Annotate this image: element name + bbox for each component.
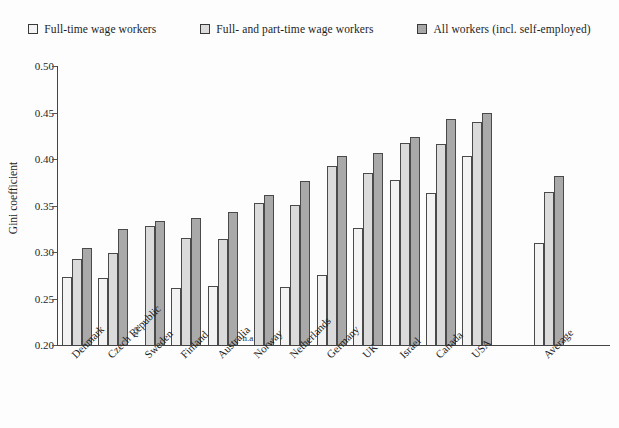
y-axis-tick-label: 0.35 (16, 200, 54, 212)
bar (534, 243, 544, 345)
bar-group (96, 66, 130, 345)
bar (400, 143, 410, 345)
bar-group (424, 66, 458, 345)
bar (300, 181, 310, 345)
bar-group (278, 66, 312, 345)
bar (363, 173, 373, 345)
plot-area: n.a.n.a. (58, 66, 610, 345)
bar-group (315, 66, 349, 345)
plot-wrapper: Gini coefficient 0.500.450.400.350.300.2… (0, 0, 619, 428)
bar (290, 205, 300, 345)
bar-group: n.a. (133, 66, 167, 345)
bar (554, 176, 564, 345)
bar (426, 193, 436, 345)
bar-group (351, 66, 385, 345)
bar (254, 203, 264, 345)
gini-coefficient-bar-chart: Full-time wage workers Full- and part-ti… (0, 0, 619, 428)
bar (191, 218, 201, 345)
bar (62, 277, 72, 345)
y-axis-tick-label: 0.45 (16, 107, 54, 119)
bar (155, 221, 165, 345)
bar (436, 144, 446, 345)
x-axis-category-labels: DenmarkCzech RepublicSwedenFinlandAustra… (0, 348, 619, 428)
bar (337, 156, 347, 345)
bar (446, 119, 456, 345)
bar (462, 156, 472, 345)
y-axis-tick-label: 0.30 (16, 246, 54, 258)
bar (482, 113, 492, 346)
bar (118, 229, 128, 345)
y-axis-tick-label: 0.25 (16, 293, 54, 305)
bar-group: n.a. (242, 66, 276, 345)
bar-group (206, 66, 240, 345)
bar (218, 239, 228, 345)
bar-group (169, 66, 203, 345)
bar-group (532, 66, 566, 345)
bar (472, 122, 482, 345)
bar (228, 212, 238, 345)
bar (390, 180, 400, 345)
bar (108, 253, 118, 345)
y-axis-tick-label: 0.40 (16, 153, 54, 165)
bar-group (388, 66, 422, 345)
bar (373, 153, 383, 345)
bar (264, 195, 274, 345)
bar-group (460, 66, 494, 345)
bar (544, 192, 554, 345)
bar (72, 259, 82, 345)
y-axis-tick-label: 0.50 (16, 60, 54, 72)
bar (410, 137, 420, 345)
bar-group (60, 66, 94, 345)
bar (181, 238, 191, 345)
